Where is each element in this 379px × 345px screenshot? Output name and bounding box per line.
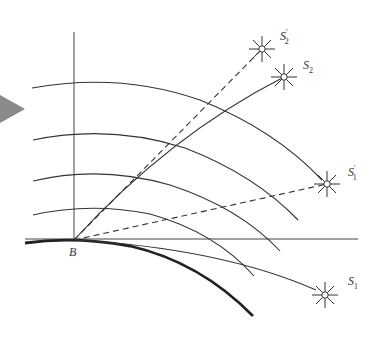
- star-icon-s2: [271, 64, 297, 90]
- apparent-direction-s2: [74, 49, 262, 240]
- atmosphere-layer-1: [32, 82, 322, 180]
- label-s1-prime: S′1: [348, 164, 357, 182]
- light-path-s1: [74, 240, 316, 290]
- label-s2-prime: S′2: [280, 28, 289, 46]
- label-b: B: [69, 245, 77, 259]
- light-path-s2: [74, 77, 284, 240]
- pointer-arrow-icon: [0, 95, 25, 123]
- refraction-diagram: B S′2 S2 S′1 S1: [0, 0, 379, 345]
- label-s2: S2: [303, 58, 313, 75]
- atmosphere-layer-4: [33, 208, 254, 276]
- star-icon-s1-prime: [314, 171, 340, 197]
- star-icon-s1: [312, 282, 338, 308]
- label-s1: S1: [348, 274, 358, 291]
- apparent-direction-s1: [74, 184, 327, 240]
- earth-surface: [25, 240, 253, 316]
